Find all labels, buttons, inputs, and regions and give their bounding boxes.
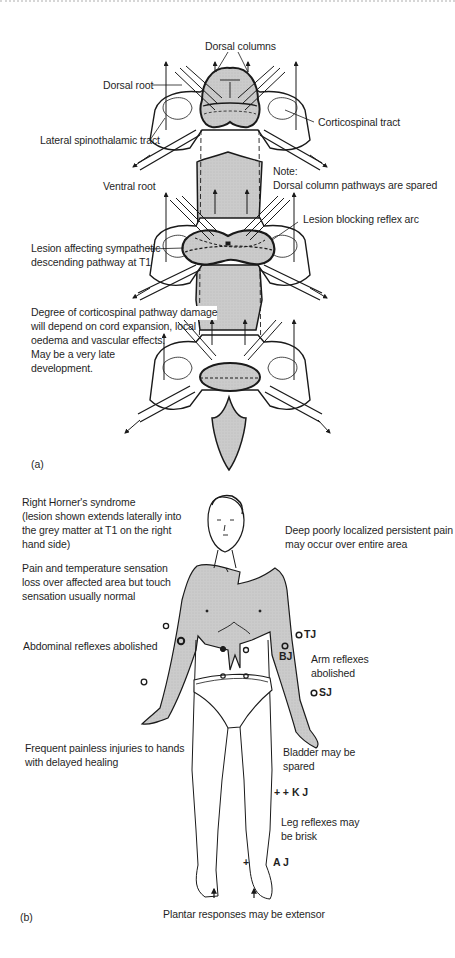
label-lesion-sympathetic-1: Lesion affecting sympathetic — [31, 242, 161, 256]
label-corticospinal-damage-1: Degree of corticospinal pathway damage — [31, 306, 217, 320]
label-corticospinal-damage-4: May be a very late — [31, 348, 115, 362]
label-bladder-1: Bladder may be — [283, 746, 355, 760]
sj-marker — [311, 690, 317, 696]
panel-label-b: (b) — [20, 911, 33, 925]
absent-reflex-marker — [141, 679, 147, 685]
label-dorsal-root: Dorsal root — [103, 79, 153, 93]
label-abdominal-reflexes: Abdominal reflexes abolished — [23, 640, 157, 654]
label-horner-3: the grey matter at T1 on the right — [22, 524, 171, 538]
label-pain-2: loss over affected area but touch — [22, 576, 171, 590]
spinal-cord-diagram — [125, 52, 330, 470]
label-leg-reflexes-1: Leg reflexes may — [281, 816, 359, 830]
reflex-sign-kj: + + — [274, 786, 289, 800]
label-dorsal-columns: Dorsal columns — [205, 40, 276, 54]
label-corticospinal-tract: Corticospinal tract — [318, 116, 400, 130]
label-note-title: Note: — [273, 165, 298, 179]
label-hands-2: with delayed healing — [25, 756, 118, 770]
label-pain-3: sensation usually normal — [22, 590, 135, 604]
reflex-sign-aj: + — [243, 856, 249, 870]
label-corticospinal-damage-5: development. — [31, 362, 93, 376]
label-plantar-responses: Plantar responses may be extensor — [163, 908, 325, 922]
label-deep-pain-2: may occur over entire area — [285, 538, 407, 552]
label-ventral-root: Ventral root — [103, 180, 156, 194]
cord-section-bottom — [200, 363, 260, 391]
reflex-label-aj: A J — [273, 856, 289, 870]
absent-reflex-marker — [163, 623, 168, 628]
reflex-label-bj: BJ — [279, 650, 292, 664]
reflex-label-sj: SJ — [319, 686, 332, 700]
label-lesion-reflex-arc: Lesion blocking reflex arc — [303, 213, 419, 227]
label-horner-2: (lesion shown extends laterally into — [22, 510, 181, 524]
label-corticospinal-damage-3: oedema and vascular effects. — [31, 334, 165, 348]
label-horner-1: Right Horner's syndrome — [22, 496, 136, 510]
label-pain-1: Pain and temperature sensation — [22, 562, 168, 576]
label-leg-reflexes-2: be brisk — [281, 830, 317, 844]
reflex-label-tj: TJ — [304, 628, 316, 642]
label-note-text: Dorsal column pathways are spared — [273, 179, 437, 193]
label-bladder-2: spared — [283, 760, 315, 774]
label-arm-reflexes-1: Arm reflexes — [311, 653, 369, 667]
label-corticospinal-damage-2: will depend on cord expansion, local — [31, 320, 196, 334]
label-lateral-spinothalamic-tract: Lateral spinothalamic tract — [40, 134, 160, 148]
label-arm-reflexes-2: abolished — [311, 667, 355, 681]
label-hands-1: Frequent painless injuries to hands — [25, 742, 184, 756]
absent-reflex-marker — [244, 648, 249, 653]
reflex-label-kj: K J — [292, 786, 308, 800]
head — [208, 497, 244, 552]
panel-label-a: (a) — [31, 458, 44, 472]
absent-reflex-marker — [220, 646, 225, 651]
filum-terminale — [212, 397, 246, 470]
label-horner-4: hand side) — [22, 538, 70, 552]
tj-marker — [296, 632, 302, 638]
label-lesion-sympathetic-2: descending pathway at T1 — [31, 256, 151, 270]
briefs — [194, 674, 272, 728]
label-deep-pain-1: Deep poorly localized persistent pain — [285, 524, 453, 538]
